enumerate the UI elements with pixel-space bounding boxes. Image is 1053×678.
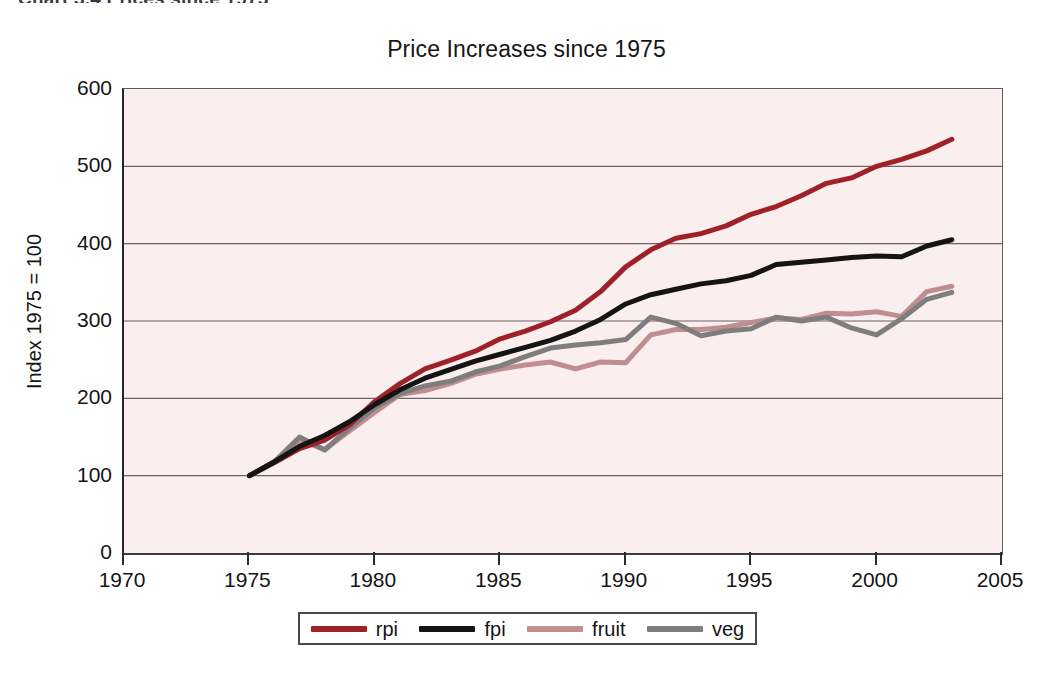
legend-swatch-fruit (527, 626, 583, 632)
legend-item-fruit[interactable]: fruit (527, 619, 625, 639)
series-lines (249, 139, 951, 475)
legend-swatch-rpi (311, 626, 367, 632)
plot-svg (124, 89, 1002, 553)
chart-title: Price Increases since 1975 (0, 36, 1053, 63)
plot-area (122, 88, 1003, 555)
x-tick-label: 1975 (202, 568, 292, 592)
legend-item-veg[interactable]: veg (647, 619, 744, 639)
x-tick-label: 2005 (955, 568, 1045, 592)
y-tick-label: 300 (52, 309, 112, 330)
x-tick-label: 1985 (453, 568, 543, 592)
y-tick-label: 100 (52, 464, 112, 485)
legend-label-rpi: rpi (376, 619, 398, 639)
y-tick-label: 600 (52, 77, 112, 98)
x-tick-label: 1990 (579, 568, 669, 592)
x-tick-mark (1000, 552, 1002, 565)
series-line-fruit (249, 286, 951, 475)
x-tick-mark (624, 552, 626, 565)
x-tick-mark (875, 552, 877, 565)
y-tick-label: 400 (52, 232, 112, 253)
legend-label-fpi: fpi (484, 619, 505, 639)
series-line-fpi (249, 240, 951, 476)
chart-figure: Chart 3.4 Prices since 1975 Price Increa… (0, 0, 1053, 678)
chart-legend[interactable]: rpifpifruitveg (298, 612, 757, 645)
x-tick-label: 1970 (77, 568, 167, 592)
y-tick-label: 500 (52, 154, 112, 175)
x-tick-mark (498, 552, 500, 565)
legend-item-rpi[interactable]: rpi (311, 619, 398, 639)
y-tick-label: 200 (52, 386, 112, 407)
x-axis: 19701975198019851990199520002005 (0, 552, 1053, 612)
x-tick-mark (749, 552, 751, 565)
legend-label-fruit: fruit (592, 619, 625, 639)
x-tick-label: 1995 (704, 568, 794, 592)
x-tick-label: 1980 (328, 568, 418, 592)
y-axis-label: Index 1975 = 100 (23, 172, 46, 452)
x-tick-label: 2000 (830, 568, 920, 592)
x-tick-mark (247, 552, 249, 565)
legend-swatch-fpi (419, 626, 475, 632)
x-tick-mark (122, 552, 124, 565)
x-tick-mark (373, 552, 375, 565)
gridlines (124, 166, 1002, 475)
legend-item-fpi[interactable]: fpi (419, 619, 505, 639)
legend-label-veg: veg (712, 619, 744, 639)
legend-swatch-veg (647, 626, 703, 632)
